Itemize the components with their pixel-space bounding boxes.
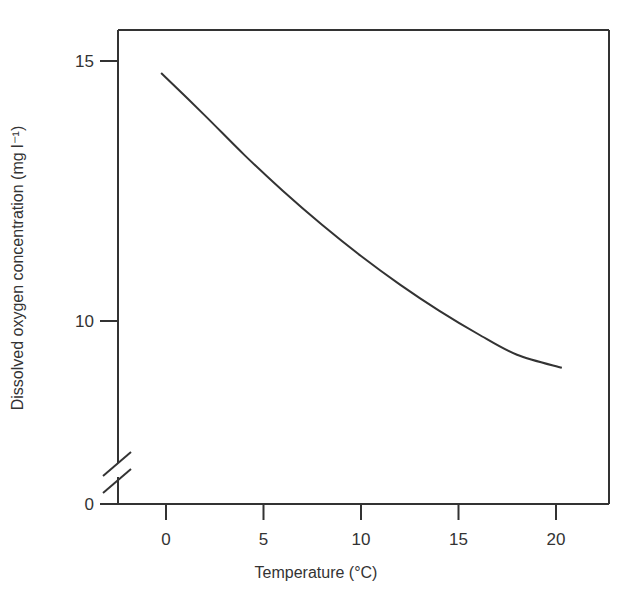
x-ticks: 05101520 [161,504,565,549]
x-tick-label: 0 [161,530,170,549]
plot-frame [100,30,609,504]
y-axis-label: Dissolved oxygen concentration (mg l⁻¹) [9,126,26,411]
y-tick-label: 15 [75,52,94,71]
y-tick-label: 0 [85,495,94,514]
x-tick-label: 15 [449,530,468,549]
y-tick-label: 10 [75,312,94,331]
x-tick-label: 5 [259,530,268,549]
do-curve [161,73,562,368]
x-tick-label: 10 [352,530,371,549]
x-axis-label: Temperature (°C) [255,564,378,581]
y-ticks: 01015 [75,52,118,514]
chart: 01015 05101520 Temperature (°C) Dissolve… [0,0,642,612]
x-tick-label: 20 [547,530,566,549]
